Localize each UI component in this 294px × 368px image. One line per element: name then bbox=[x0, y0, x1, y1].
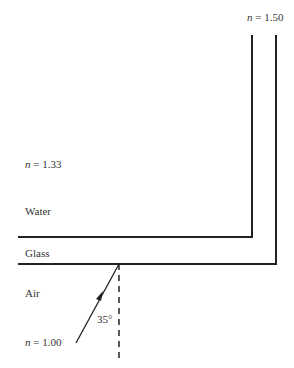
ray-arrowhead-icon bbox=[96, 291, 103, 301]
air-index-label: n = 1.00 bbox=[25, 336, 62, 348]
glass-index-label: n = 1.50 bbox=[247, 11, 284, 23]
water-index-label: n = 1.33 bbox=[25, 158, 62, 170]
incident-ray bbox=[76, 264, 119, 343]
angle-label: 35° bbox=[97, 313, 112, 325]
glass-label: Glass bbox=[25, 247, 49, 259]
refraction-diagram: n = 1.50 n = 1.33 Water Glass Air 35° n … bbox=[0, 0, 294, 368]
water-glass-boundary bbox=[18, 35, 252, 237]
air-label: Air bbox=[25, 287, 40, 299]
glass-air-boundary bbox=[18, 35, 276, 264]
water-label: Water bbox=[25, 205, 51, 217]
